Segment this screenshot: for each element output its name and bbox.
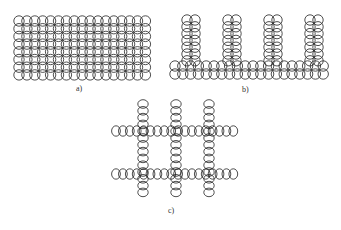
circle-element (171, 134, 181, 143)
circle-element (171, 154, 181, 163)
circle-element (14, 70, 24, 80)
circle-element (171, 100, 181, 109)
circle-element (112, 126, 121, 136)
circle-element (140, 70, 150, 80)
circle-element (229, 169, 238, 179)
circle-element (204, 188, 214, 197)
circle-element (160, 126, 169, 136)
circle-element (171, 127, 181, 136)
circle-element (222, 126, 231, 136)
circle-element (181, 126, 190, 136)
circle-element (22, 70, 32, 80)
circle-element (53, 70, 63, 80)
circle-element (153, 169, 162, 179)
circle-element (138, 147, 148, 156)
circle-element (132, 70, 142, 80)
circle-element (138, 134, 148, 143)
circle-element (171, 147, 181, 156)
circle-element (171, 188, 181, 197)
circle-element (318, 69, 328, 79)
circle-element (85, 70, 95, 80)
circle-element (204, 181, 214, 190)
circle-element (160, 169, 169, 179)
circle-element (138, 154, 148, 163)
circle-element (138, 141, 148, 150)
circle-element (138, 120, 148, 129)
circle-element (93, 70, 103, 80)
circle-element (204, 100, 214, 109)
circle-element (204, 113, 214, 122)
circle-element (229, 126, 238, 136)
circle-element (204, 141, 214, 150)
circle-element (201, 169, 210, 179)
circle-element (222, 169, 231, 179)
panel-c-lattice (112, 100, 238, 197)
circle-element (171, 141, 181, 150)
circle-element (138, 107, 148, 116)
circle-element (124, 70, 134, 80)
circle-element (215, 169, 224, 179)
panel-b-comb (170, 15, 329, 79)
panel-a-grid (14, 16, 151, 80)
circle-element (125, 169, 134, 179)
circle-element (171, 181, 181, 190)
circle-element (30, 70, 40, 80)
circle-element (188, 126, 197, 136)
circle-element (119, 169, 128, 179)
circle-element (215, 126, 224, 136)
circle-element (132, 169, 141, 179)
circle-element (153, 126, 162, 136)
panel-b-label: b) (242, 85, 249, 94)
circle-element (171, 107, 181, 116)
circle-element (171, 161, 181, 170)
circle-element (204, 161, 214, 170)
panel-c-label: c) (168, 206, 175, 215)
circle-pattern-diagram: a) b) c) (0, 0, 341, 230)
circle-element (109, 70, 119, 80)
circle-element (77, 70, 87, 80)
circle-element (112, 169, 121, 179)
circle-element (69, 70, 79, 80)
circle-element (194, 169, 203, 179)
circle-element (45, 70, 55, 80)
circle-element (204, 147, 214, 156)
circle-element (204, 107, 214, 116)
circle-element (194, 126, 203, 136)
circle-element (138, 181, 148, 190)
circle-element (61, 70, 71, 80)
circle-element (204, 154, 214, 163)
circle-element (188, 169, 197, 179)
circle-element (119, 126, 128, 136)
circle-element (101, 70, 111, 80)
circle-element (138, 161, 148, 170)
circle-element (208, 169, 217, 179)
circle-element (38, 70, 48, 80)
circle-element (138, 113, 148, 122)
circle-element (117, 70, 127, 80)
circle-element (171, 120, 181, 129)
circle-element (204, 168, 214, 177)
panel-a-label: a) (76, 84, 83, 93)
circle-element (138, 188, 148, 197)
circle-element (171, 113, 181, 122)
circle-element (146, 126, 155, 136)
circle-element (181, 169, 190, 179)
circle-element (139, 169, 148, 179)
circle-element (138, 100, 148, 109)
circle-element (125, 126, 134, 136)
